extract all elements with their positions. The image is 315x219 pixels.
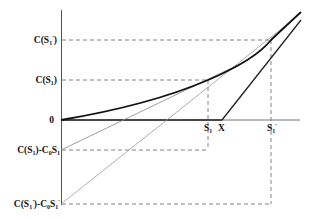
intrinsic-payoff-line: [222, 20, 301, 120]
label-hedge-s1: C(S1)-C0S1: [17, 145, 60, 156]
label-s1: S1: [204, 123, 212, 134]
label-zero: 0: [49, 115, 54, 125]
option-diagram: C(S1') C(S1) 0 C(S1)-C0S1 C(S1')-C0S1' S…: [0, 0, 315, 219]
label-c-s1: C(S1): [36, 75, 57, 86]
tangent-at-s1-prime: [61, 26, 285, 204]
label-s1-prime: S1': [267, 123, 277, 134]
label-c-s1-prime: C(S1'): [34, 35, 57, 46]
label-x: X: [218, 123, 225, 133]
label-hedge-s1-prime: C(S1')-C0S1': [14, 199, 60, 210]
